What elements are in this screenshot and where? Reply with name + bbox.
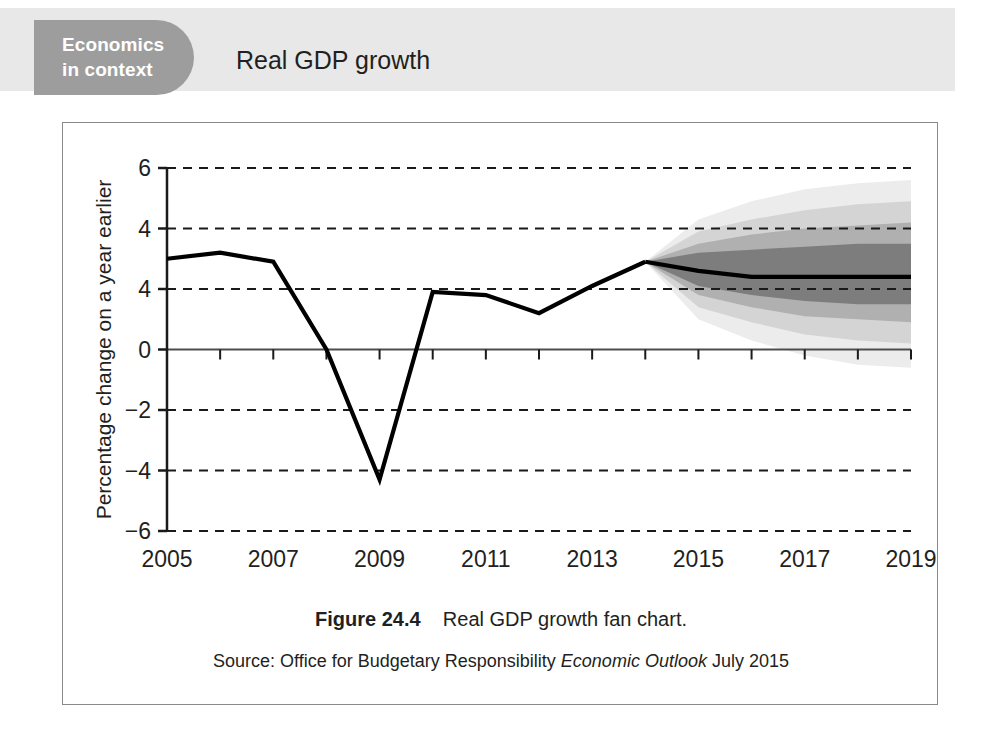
fan-band-group [645,180,911,368]
y-tick-label: −6 [125,518,151,544]
badge-line-2: in context [62,57,194,82]
y-tick-label: −4 [125,458,151,484]
x-tick-label-group: 20052007200920112013201520172019 [141,546,936,572]
x-tick-label: 2005 [141,546,192,572]
figure-source-suffix: July 2015 [707,651,789,671]
x-tick-label: 2015 [673,546,724,572]
figure-caption-spacer [426,608,437,630]
y-axis-group [158,168,167,531]
badge-line-1: Economics [62,32,194,57]
header-title: Real GDP growth [236,46,430,75]
header-band: Economics in context Real GDP growth [0,8,955,91]
y-tick-label: 4 [138,276,151,302]
x-tick-label: 2007 [248,546,299,572]
x-tick-label: 2009 [354,546,405,572]
y-tick-label: 4 [138,216,151,242]
figure-source-italic: Economic Outlook [561,651,707,671]
x-tick-label: 2013 [567,546,618,572]
y-tick-label: 6 [138,155,151,181]
x-tick-label: 2019 [885,546,936,572]
caption-block: Figure 24.4 Real GDP growth fan chart. S… [63,605,939,675]
y-tick-label-group: 6440−2−4−6 [125,155,151,544]
series-line-history [167,253,645,480]
figure-caption: Figure 24.4 Real GDP growth fan chart. [63,605,939,633]
x-tick-label: 2011 [461,546,510,572]
figure-source: Source: Office for Budgetary Responsibil… [63,647,939,675]
figure-source-prefix: Source: Office for Budgetary Responsibil… [213,651,561,671]
figure-caption-text: Real GDP growth fan chart. [443,608,687,630]
y-axis-title-group: Percentage change on a year earlier [92,180,115,520]
chart-plot-area: 6440−2−4−6 20052007200920112013201520172… [63,123,939,583]
y-tick-label: 0 [138,337,151,363]
figure-caption-label: Figure 24.4 [315,608,421,630]
fan-chart-svg: 6440−2−4−6 20052007200920112013201520172… [63,123,939,583]
x-tick-label: 2017 [779,546,830,572]
economics-in-context-badge: Economics in context [34,20,194,95]
y-tick-label: −2 [125,397,151,423]
y-axis-title: Percentage change on a year earlier [92,180,115,520]
figure-frame: 6440−2−4−6 20052007200920112013201520172… [62,122,938,705]
